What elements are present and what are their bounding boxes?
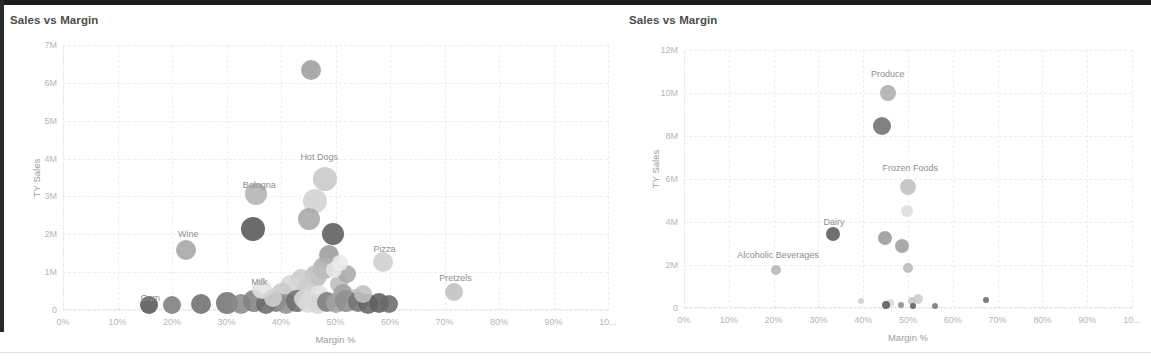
gridline-vertical — [172, 45, 173, 310]
data-point-bubble[interactable] — [898, 302, 904, 308]
data-point-bubble[interactable] — [873, 117, 891, 135]
data-point-bubble[interactable] — [901, 205, 913, 217]
gridline-vertical — [227, 45, 228, 310]
x-axis-tick-label: 60% — [381, 317, 399, 327]
chart-panel-right[interactable]: Sales vs Margin Margin % TY Sales 0%10%2… — [621, 5, 1151, 355]
y-axis-tick-label: 8M — [665, 131, 678, 141]
data-point-bubble[interactable] — [858, 298, 864, 304]
data-point-label: Hot Dogs — [300, 152, 338, 162]
gridline-vertical — [499, 45, 500, 310]
x-axis-tick-label: 50% — [326, 317, 344, 327]
x-axis-tick-label: 40% — [854, 315, 872, 325]
data-point-label: Pretzels — [439, 273, 472, 283]
x-axis-tick-label: 50% — [899, 315, 917, 325]
y-axis-tick-label: 5M — [44, 116, 57, 126]
gridline-horizontal — [63, 196, 608, 197]
gridline-vertical — [1132, 50, 1133, 308]
y-axis-title-right: TY Sales — [650, 149, 661, 187]
page-title-right: Sales vs Margin — [629, 14, 717, 26]
y-axis-title-left: TY Sales — [31, 158, 42, 196]
data-point-bubble[interactable] — [373, 252, 393, 272]
x-axis-tick-label: 30% — [217, 317, 235, 327]
data-point-bubble[interactable] — [322, 223, 344, 245]
data-point-bubble[interactable] — [264, 289, 282, 307]
x-axis-tick-label: 40% — [272, 317, 290, 327]
y-axis-tick-label: 2M — [665, 260, 678, 270]
x-axis-tick-label: 90% — [1078, 315, 1096, 325]
data-point-bubble[interactable] — [354, 285, 372, 303]
y-axis-tick-label: 1M — [44, 267, 57, 277]
chart-panel-left[interactable]: Sales vs Margin Margin % TY Sales 0%10%2… — [4, 5, 621, 355]
x-axis-tick-label: 10... — [599, 317, 617, 327]
data-point-bubble[interactable] — [910, 303, 916, 309]
data-point-bubble[interactable] — [900, 179, 916, 195]
data-point-label: Dairy — [824, 217, 845, 227]
data-point-label: Wine — [178, 229, 199, 239]
gridline-horizontal — [684, 222, 1132, 223]
y-axis-tick-label: 3M — [44, 191, 57, 201]
gridline-vertical — [554, 45, 555, 310]
page-title-left: Sales vs Margin — [10, 14, 98, 26]
gridline-vertical — [390, 45, 391, 310]
x-axis-tick-label: 10... — [1123, 315, 1141, 325]
gridline-vertical — [608, 45, 609, 310]
data-point-bubble[interactable] — [294, 290, 312, 308]
y-axis-tick-label: 12M — [660, 45, 678, 55]
data-point-bubble[interactable] — [880, 85, 896, 101]
data-point-bubble[interactable] — [983, 297, 989, 303]
footer-divider — [0, 352, 1151, 353]
data-point-bubble[interactable] — [301, 60, 321, 80]
data-point-bubble[interactable] — [298, 208, 320, 230]
x-axis-tick-label: 20% — [765, 315, 783, 325]
data-point-bubble[interactable] — [826, 227, 840, 241]
x-axis-tick-label: 10% — [108, 317, 126, 327]
gridline-vertical — [118, 45, 119, 310]
scatter-plot-left[interactable]: Margin % TY Sales 0%10%20%30%40%50%60%70… — [63, 45, 608, 310]
watermark — [72, 330, 112, 348]
data-point-label: Produce — [871, 69, 905, 79]
gridline-horizontal — [684, 308, 1132, 309]
gridline-horizontal — [684, 93, 1132, 94]
x-axis-tick-label: 90% — [544, 317, 562, 327]
data-point-bubble[interactable] — [313, 167, 337, 191]
gridline-horizontal — [684, 136, 1132, 137]
x-axis-tick-label: 0% — [677, 315, 690, 325]
data-point-bubble[interactable] — [445, 283, 463, 301]
y-axis-tick-label: 0 — [52, 305, 57, 315]
x-axis-tick-label: 60% — [944, 315, 962, 325]
data-point-bubble[interactable] — [163, 296, 181, 314]
y-axis-tick-label: 2M — [44, 229, 57, 239]
data-point-bubble[interactable] — [878, 231, 892, 245]
x-axis-tick-label: 80% — [490, 317, 508, 327]
data-point-label: Alcoholic Beverages — [737, 250, 819, 260]
y-axis-tick-label: 7M — [44, 40, 57, 50]
data-point-bubble[interactable] — [332, 255, 348, 271]
x-axis-tick-label: 70% — [989, 315, 1007, 325]
data-point-bubble[interactable] — [176, 240, 196, 260]
x-axis-tick-label: 70% — [435, 317, 453, 327]
y-axis-tick-label: 10M — [660, 88, 678, 98]
data-point-bubble[interactable] — [895, 239, 909, 253]
data-point-label: Bologna — [243, 180, 276, 190]
y-axis-tick-label: 6M — [44, 78, 57, 88]
data-point-label: Pizza — [374, 244, 396, 254]
data-point-bubble[interactable] — [903, 263, 913, 273]
x-axis-tick-label: 0% — [56, 317, 69, 327]
data-point-bubble[interactable] — [380, 295, 398, 313]
data-point-label: Milk — [251, 277, 267, 287]
x-axis-tick-label: 80% — [1033, 315, 1051, 325]
y-axis-tick-label: 6M — [665, 174, 678, 184]
gridline-vertical — [281, 45, 282, 310]
data-point-bubble[interactable] — [932, 303, 938, 309]
data-point-bubble[interactable] — [241, 217, 265, 241]
x-axis-tick-label: 30% — [809, 315, 827, 325]
dashboard-frame: Sales vs Margin Margin % TY Sales 0%10%2… — [0, 0, 1151, 360]
data-point-bubble[interactable] — [191, 294, 211, 314]
x-axis-tick-label: 20% — [163, 317, 181, 327]
data-point-bubble[interactable] — [771, 265, 781, 275]
y-axis-tick-label: 4M — [44, 154, 57, 164]
data-point-label: Frozen Foods — [882, 163, 938, 173]
scatter-plot-right[interactable]: Margin % TY Sales 0%10%20%30%40%50%60%70… — [684, 50, 1132, 308]
data-point-bubble[interactable] — [882, 301, 890, 309]
y-axis-tick-label: 4M — [665, 217, 678, 227]
